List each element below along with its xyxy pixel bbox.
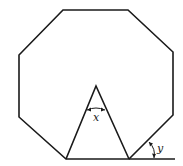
angle-x-label: x <box>93 111 100 124</box>
angle-y-label: y <box>156 142 164 155</box>
octagon-diagram: x y <box>0 0 183 166</box>
angle-y-marker: y <box>149 142 164 158</box>
angle-x-marker: x <box>87 108 105 125</box>
